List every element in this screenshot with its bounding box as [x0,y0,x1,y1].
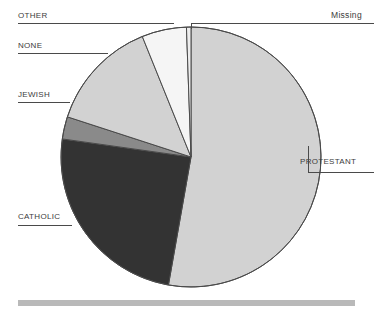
slice-label-none: NONE [18,41,42,50]
leader-line-other [18,23,174,24]
leader-line-protestant [308,172,374,173]
leader-tick-protestant [308,146,309,173]
slice-label-jewish: JEWISH [18,90,50,99]
leader-line-missing [191,23,374,24]
pie-slice-catholic[interactable] [61,139,191,285]
leader-line-jewish [18,102,70,103]
slice-label-catholic: CATHOLIC [18,212,60,221]
pie-chart-figure [0,0,382,312]
leader-line-catholic [18,225,72,226]
leader-line-none [18,53,108,54]
pie-chart-screenshot: OTHER NONE JEWISH CATHOLIC PROTESTANT Mi… [0,0,382,312]
slice-label-other: OTHER [18,11,48,20]
leader-tick-missing [191,23,192,29]
slice-label-missing: Missing [331,11,362,20]
footer-bar [18,300,355,306]
pie-chart-svg [0,0,382,312]
